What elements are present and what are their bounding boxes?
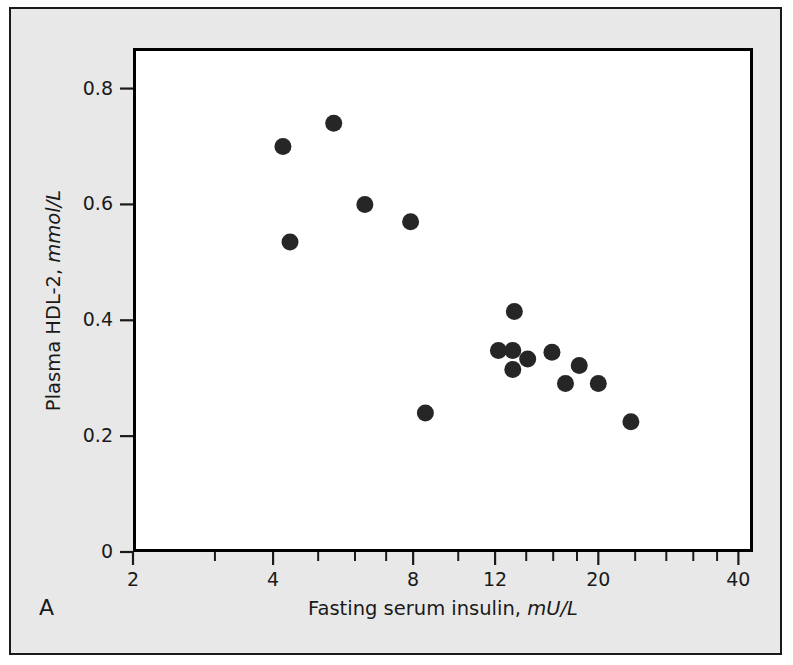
y-tick-label: 0.2 — [43, 424, 113, 446]
y-axis-ticks — [120, 89, 133, 552]
data-point — [325, 115, 342, 132]
data-point — [402, 213, 419, 230]
data-point — [417, 404, 434, 421]
data-point — [557, 375, 574, 392]
data-point — [504, 342, 521, 359]
figure-panel: Plasma HDL-2, mmol/L Fasting serum insul… — [9, 7, 782, 655]
y-axis-label: Plasma HDL-2, mmol/L — [42, 91, 65, 511]
y-tick-label: 0.6 — [43, 192, 113, 214]
x-tick-label: 2 — [113, 568, 153, 590]
y-tick-label: 0 — [43, 540, 113, 562]
data-point — [274, 138, 291, 155]
data-point — [590, 375, 607, 392]
y-tick-label: 0.4 — [43, 308, 113, 330]
scatter-series — [274, 115, 639, 430]
x-axis-label-unit: mU/L — [527, 597, 578, 620]
x-tick-label: 40 — [718, 568, 758, 590]
panel-label: A — [39, 595, 54, 620]
y-tick-label: 0.8 — [43, 77, 113, 99]
data-point — [356, 196, 373, 213]
x-axis-label-main: Fasting serum insulin, — [308, 597, 527, 620]
data-point — [543, 344, 560, 361]
y-axis-label-main: Plasma HDL-2, — [42, 263, 65, 411]
data-point — [571, 357, 588, 374]
data-point — [519, 351, 536, 368]
data-point — [282, 234, 299, 251]
x-tick-label: 12 — [475, 568, 515, 590]
x-tick-label: 4 — [253, 568, 293, 590]
chart-svg — [11, 9, 784, 657]
x-tick-label: 20 — [578, 568, 618, 590]
x-axis-ticks — [133, 552, 738, 565]
data-point — [506, 303, 523, 320]
x-tick-label: 8 — [393, 568, 433, 590]
data-point — [622, 413, 639, 430]
x-axis-label: Fasting serum insulin, mU/L — [133, 597, 753, 620]
data-point — [504, 361, 521, 378]
